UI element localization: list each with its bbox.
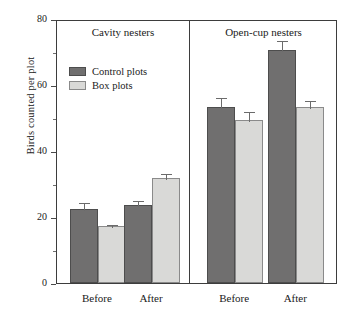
y-tick-label-20: 20 [13,211,47,222]
error-bar-cap [107,225,118,226]
bar-open-cup-nesters-after-box-plots [296,107,324,283]
error-bar-line [310,101,311,109]
error-bar-line [249,112,250,122]
y-tick-label-80: 80 [13,13,47,24]
error-bar-line [221,98,222,110]
error-bar-cap [216,98,227,99]
panel-divider [189,21,190,283]
error-bar-cap [79,203,90,204]
legend-item-control-plots: Control plots [69,66,147,77]
bar-open-cup-nesters-before-box-plots [235,120,263,283]
error-bar-cap [133,201,144,202]
panel-title-cavity-nesters: Cavity nesters [57,26,189,38]
legend-swatch-box-plots [69,81,86,90]
legend: Control plots Box plots [69,66,147,94]
y-tick-label-60: 60 [13,79,47,90]
y-tick-label-40: 40 [13,145,47,156]
bar-cavity-nesters-before-control-plots [70,209,98,283]
y-axis-ticks: 80 60 40 20 0 [0,0,56,322]
error-bar-line [282,41,283,52]
panel-title-open-cup-nesters: Open-cup nesters [189,26,338,38]
error-bar-cap [161,174,172,175]
bar-open-cup-nesters-after-control-plots [268,50,296,283]
error-bar-line [84,203,85,210]
bar-chart-figure: Birds counted per plot 80 60 40 20 [0,0,349,322]
bar-cavity-nesters-before-box-plots [98,226,126,283]
legend-label-box-plots: Box plots [92,80,133,91]
error-bar-cap [305,101,316,102]
x-group-label-open-cup-nesters-after: After [255,292,335,304]
plot-area: Cavity nesters Open-cup nesters Control … [56,20,337,284]
x-group-label-cavity-nesters-after: After [111,292,191,304]
error-bar-cap [244,112,255,113]
y-tick-mark-0 [51,284,56,285]
y-tick-label-0: 0 [13,277,47,288]
error-bar-cap [277,41,288,42]
bar-open-cup-nesters-before-control-plots [207,107,235,283]
legend-label-control-plots: Control plots [92,66,147,77]
legend-item-box-plots: Box plots [69,80,147,91]
legend-swatch-control-plots [69,67,86,76]
bar-cavity-nesters-after-box-plots [152,178,180,283]
bar-cavity-nesters-after-control-plots [124,205,152,283]
